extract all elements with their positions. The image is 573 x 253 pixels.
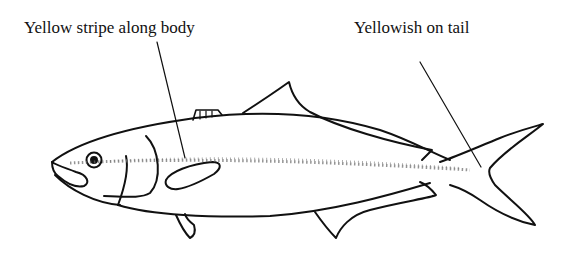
- pectoral-fin: [166, 162, 220, 189]
- tail-fin: [440, 124, 543, 225]
- body-upper-outline: [52, 114, 450, 162]
- leader-line-stripe: [157, 42, 185, 158]
- fish-illustration: [0, 0, 573, 253]
- gill-cover: [104, 136, 158, 197]
- mouth: [52, 162, 87, 186]
- second-dorsal-fin: [243, 82, 432, 160]
- anal-fin: [315, 182, 436, 238]
- body-lower-outline: [118, 183, 430, 217]
- yellow-stripe-stipple: [70, 163, 450, 164]
- pelvic-fin: [176, 214, 195, 238]
